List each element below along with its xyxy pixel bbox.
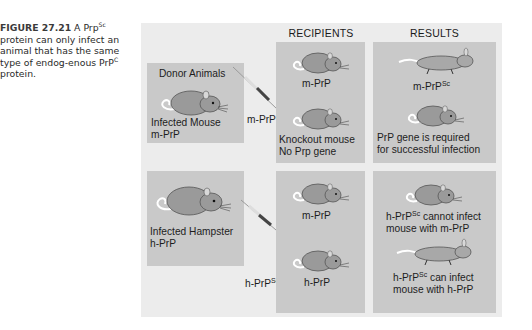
- knockout-mouse-icon: [288, 101, 354, 133]
- result-panel-top: m-PrPSc PrP gene is required for success…: [373, 42, 496, 163]
- figure-caption: FIGURE 27.21 A PrpSc protein can only in…: [0, 22, 136, 80]
- recipient-label: m-PrP: [302, 78, 331, 90]
- recipient-label: m-PrP: [302, 210, 331, 222]
- donor-line2: h-PrP: [150, 238, 176, 250]
- result-line2: mouse with h-PrP: [393, 284, 473, 296]
- recipient-panel-top: m-PrP Knockout mouse No Prp gene: [276, 42, 365, 163]
- result-panel-bottom: h-PrPSc cannot infect mouse with m-PrP h…: [373, 171, 496, 313]
- figure-diagram: RECIPIENTS RESULTS Donor Animals Infecte…: [141, 23, 502, 317]
- recipient-panel-bottom: m-PrP h-PrP: [276, 171, 365, 313]
- recipient-line1: Knockout mouse: [279, 134, 355, 146]
- injection-label-hamster: h-PrPSc: [245, 278, 279, 290]
- mouse-icon: [288, 45, 354, 77]
- donor-line1: Infected Hampster: [150, 226, 233, 238]
- donor-panel-hamster: Infected Hampster h-PrP: [147, 171, 244, 266]
- donor-line2: m-PrP: [151, 129, 180, 141]
- result-line2: for successful infection: [377, 144, 480, 156]
- mouse-icon: [403, 98, 469, 130]
- dead-mouse-icon: [395, 46, 481, 76]
- mouse-icon: [155, 79, 235, 119]
- result-line1: PrP gene is required: [377, 132, 470, 144]
- figure-number: FIGURE 27.21: [0, 22, 71, 33]
- recipients-header: RECIPIENTS: [276, 27, 366, 39]
- mouse-icon: [288, 176, 354, 208]
- result-line1: h-PrPSc can infect: [393, 272, 474, 284]
- recipient-line2: No Prp gene: [279, 146, 336, 158]
- donor-line1: Infected Mouse: [151, 117, 221, 129]
- results-header: RESULTS: [373, 27, 496, 39]
- mouse-icon: [401, 177, 467, 209]
- dead-mouse-icon: [393, 237, 479, 267]
- mouse-icon: [288, 243, 354, 275]
- result-label: m-PrPSc: [413, 81, 450, 93]
- recipient-label: h-PrP: [304, 277, 330, 289]
- donor-panel-mouse: Donor Animals Infected Mouse m-PrP: [147, 63, 244, 143]
- result-line2: mouse with m-PrP: [386, 223, 469, 235]
- hamster-icon: [151, 175, 237, 221]
- result-line1: h-PrPSc cannot infect: [386, 211, 481, 223]
- syringe-icon: [231, 65, 281, 115]
